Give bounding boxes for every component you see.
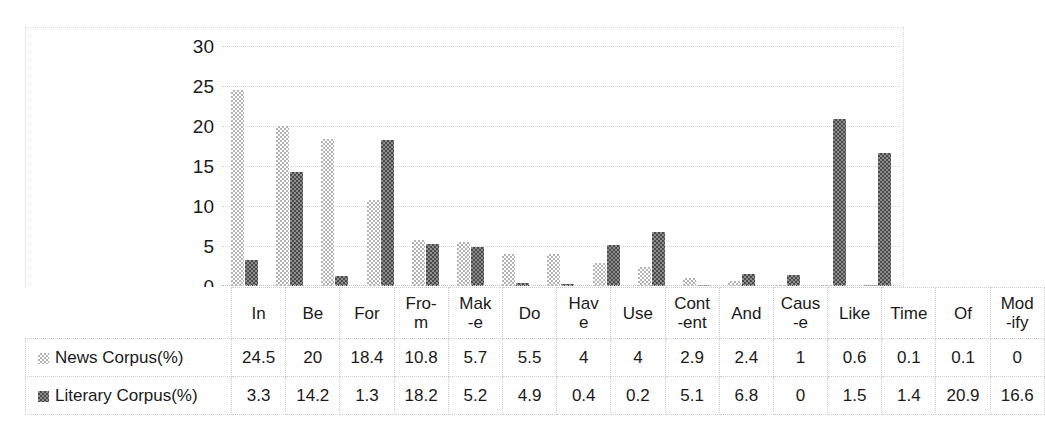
- table-header-row: InBeForFro-mMak-eDoHaveUseCont-entAndCau…: [26, 288, 1045, 339]
- table-header-Be: Be: [286, 288, 340, 339]
- header-label-line: Caus: [778, 294, 823, 313]
- table-header-For: For: [340, 288, 394, 339]
- header-label-line: Like: [832, 304, 877, 323]
- bar-group: [719, 46, 764, 286]
- header-label-line: Use: [615, 304, 660, 323]
- bar-lit: [833, 119, 846, 286]
- table-cell: 20.9: [936, 377, 990, 415]
- header-label-line: Cont: [670, 294, 715, 313]
- table-cell: 24.5: [232, 339, 286, 377]
- bar-lit: [878, 153, 891, 286]
- table-corner-cell: [26, 288, 232, 339]
- table-header-In: In: [232, 288, 286, 339]
- plot-area: [222, 46, 900, 286]
- bar-group: [403, 46, 448, 286]
- table-cell: 5.1: [665, 377, 719, 415]
- table-cell: 1.5: [828, 377, 882, 415]
- table-cell: 1.4: [882, 377, 936, 415]
- x-axis-baseline: [222, 285, 900, 286]
- table-cell: 0: [773, 377, 827, 415]
- bar-group: [538, 46, 583, 286]
- bar-news: [276, 126, 289, 286]
- header-label-line: Do: [507, 304, 552, 323]
- table-cell: 20: [286, 339, 340, 377]
- table-header-Like: Like: [828, 288, 882, 339]
- legend-swatch-icon: [38, 353, 49, 364]
- y-tick-15: 15: [193, 157, 214, 176]
- table-header-Mak-e: Mak-e: [448, 288, 502, 339]
- header-label-line: Mod: [995, 294, 1040, 313]
- bar-group: [764, 46, 809, 286]
- table-cell: 0.4: [557, 377, 611, 415]
- table-cell: 10.8: [394, 339, 448, 377]
- bar-group: [267, 46, 312, 286]
- table-cell: 0.1: [882, 339, 936, 377]
- table-cell: 0.6: [828, 339, 882, 377]
- bar-news: [367, 200, 380, 286]
- header-label-line: In: [236, 304, 281, 323]
- legend-swatch-icon: [38, 391, 49, 402]
- bar-lit: [471, 247, 484, 286]
- bar-group: [312, 46, 357, 286]
- bar-lit: [381, 140, 394, 286]
- table-cell: 4: [611, 339, 665, 377]
- bar-lit: [607, 245, 620, 286]
- table-cell: 18.4: [340, 339, 394, 377]
- bar-news: [593, 263, 606, 286]
- table-cell: 6.8: [719, 377, 773, 415]
- table-row: News Corpus(%)24.52018.410.85.75.5442.92…: [26, 339, 1045, 377]
- bar-group: [629, 46, 674, 286]
- table-header-Hav-e: Have: [557, 288, 611, 339]
- header-label-line: Fro-: [399, 294, 444, 313]
- y-tick-5: 5: [203, 237, 214, 256]
- header-label-line: -ify: [995, 313, 1040, 332]
- header-label-line: e: [561, 313, 606, 332]
- header-label-line: Time: [886, 304, 931, 323]
- bar-lit: [290, 172, 303, 286]
- table-cell: 0.2: [611, 377, 665, 415]
- table-cell: 4: [557, 339, 611, 377]
- legend-label: Literary Corpus(%): [55, 386, 198, 405]
- header-label-line: -e: [453, 313, 498, 332]
- table-header-Time: Time: [882, 288, 936, 339]
- table-cell: 1: [773, 339, 827, 377]
- table-row: Literary Corpus(%)3.314.21.318.25.24.90.…: [26, 377, 1045, 415]
- bars-layer: [222, 46, 900, 286]
- legend-item-lit: Literary Corpus(%): [26, 377, 232, 415]
- table-cell: 0.1: [936, 339, 990, 377]
- bar-lit: [245, 260, 258, 286]
- header-label-line: -ent: [670, 313, 715, 332]
- header-label-line: Mak: [453, 294, 498, 313]
- table-cell: 5.2: [448, 377, 502, 415]
- legend-item-news: News Corpus(%): [26, 339, 232, 377]
- header-label-line: m: [399, 313, 444, 332]
- bar-group: [358, 46, 403, 286]
- y-axis-tick-labels: 051015202530: [168, 46, 214, 286]
- table-cell: 1.3: [340, 377, 394, 415]
- bar-news: [321, 139, 334, 286]
- bar-group: [810, 46, 855, 286]
- bar-group: [855, 46, 900, 286]
- table-header-Do: Do: [502, 288, 556, 339]
- legend-label: News Corpus(%): [55, 348, 183, 367]
- bar-group: [674, 46, 719, 286]
- header-label-line: For: [344, 304, 389, 323]
- header-label-line: Of: [940, 304, 985, 323]
- header-label-line: Hav: [561, 294, 606, 313]
- table-header-Mod-ify: Mod-ify: [990, 288, 1044, 339]
- table-header-And: And: [719, 288, 773, 339]
- bar-news: [457, 242, 470, 286]
- table-header-Of: Of: [936, 288, 990, 339]
- table-cell: 14.2: [286, 377, 340, 415]
- table-header-Fro-m: Fro-m: [394, 288, 448, 339]
- bar-news: [502, 254, 515, 286]
- header-label-line: -e: [778, 313, 823, 332]
- bar-lit: [652, 232, 665, 286]
- header-label-line: And: [724, 304, 769, 323]
- table-cell: 16.6: [990, 377, 1044, 415]
- table-header-Cont-ent: Cont-ent: [665, 288, 719, 339]
- y-tick-20: 20: [193, 117, 214, 136]
- bar-group: [222, 46, 267, 286]
- bar-news: [412, 240, 425, 286]
